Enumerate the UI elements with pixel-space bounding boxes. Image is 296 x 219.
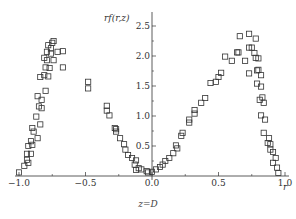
data-point-square [28, 139, 33, 144]
data-point-square [51, 38, 56, 43]
data-point-square [180, 130, 185, 135]
y-tick-label: 2.5 [136, 21, 151, 31]
x-tick-label: 0.5 [211, 178, 226, 188]
data-point-square [258, 84, 263, 89]
data-point-square [86, 79, 91, 84]
data-point-square [261, 130, 266, 135]
data-point-square [34, 114, 39, 119]
data-point-square [43, 88, 48, 93]
data-point-square [47, 65, 52, 70]
scatter-chart: −1.0−0.50.00.51.0 r 0.51.01.52.02.5 rf(r… [0, 0, 296, 219]
data-point-square [123, 147, 128, 152]
y-tick-label: 2.0 [136, 51, 151, 61]
data-point-square [38, 122, 43, 127]
data-point-square [48, 51, 53, 56]
data-point-square [192, 107, 197, 112]
y-tick-label: 1.5 [136, 81, 151, 91]
data-point-square [60, 49, 65, 54]
data-point-square [236, 50, 241, 55]
y-axis-label: rf(r,z) [104, 13, 130, 23]
data-point-square [39, 106, 44, 111]
data-point-square [273, 155, 278, 160]
data-point-square [243, 58, 248, 63]
data-point-square [60, 65, 65, 70]
data-point-square [258, 73, 263, 78]
data-point-square [175, 146, 180, 151]
data-point-square [237, 34, 242, 39]
x-tick-label: −0.5 [75, 178, 97, 188]
data-point-square [44, 58, 49, 63]
data-point-square [26, 160, 31, 165]
data-point-square [28, 151, 33, 156]
data-point-square [113, 129, 118, 134]
data-point-square [51, 58, 56, 63]
data-point-square [261, 100, 266, 105]
y-tick-label: 1.0 [136, 111, 151, 121]
data-point-square [253, 36, 258, 41]
data-point-square [30, 125, 35, 130]
data-point-square [39, 97, 44, 102]
data-point-square [276, 170, 281, 175]
data-point-square [107, 113, 112, 118]
data-point-square [268, 142, 273, 147]
data-point-square [249, 45, 254, 50]
x-axis-label: r [283, 182, 288, 192]
data-point-square [223, 54, 228, 59]
data-point-square [246, 31, 251, 36]
data-point-square [55, 49, 60, 54]
data-point-square [256, 67, 261, 72]
data-point-square [35, 136, 40, 141]
data-point-square [262, 117, 267, 122]
data-point-square [256, 56, 261, 61]
data-point-square [48, 46, 53, 51]
data-point-square [270, 149, 275, 154]
data-point-square [229, 58, 234, 63]
data-point-square [260, 95, 265, 100]
data-point-square [133, 167, 138, 172]
x-tick-label: −1.0 [8, 178, 30, 188]
data-point-square [117, 136, 122, 141]
data-point-square [246, 71, 251, 76]
data-point-square [46, 74, 51, 79]
data-point-square [16, 170, 21, 175]
data-point-square [187, 117, 192, 122]
data-point-square [203, 95, 208, 100]
data-point-square [274, 165, 279, 170]
data-point-square [86, 86, 91, 91]
data-point-square [139, 167, 144, 172]
chart-subtitle: z=D [0, 199, 296, 209]
data-point-square [121, 142, 126, 147]
y-tick-label: 0.5 [136, 141, 151, 151]
data-point-square [208, 80, 213, 85]
data-point-square [219, 70, 224, 75]
